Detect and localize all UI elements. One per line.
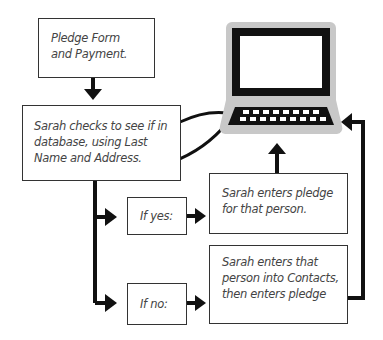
node-pledge-form: Pledge Form and Payment. (38, 18, 155, 78)
node-text: If no: (140, 296, 186, 312)
node-if-no: If no: (127, 283, 187, 325)
branch-lines (95, 180, 117, 312)
node-check-database: Sarah checks to see if in database, usin… (22, 105, 181, 181)
arrow-yes-to-pledge (187, 208, 206, 224)
node-text: If yes: (140, 208, 186, 224)
node-text: Pledge Form and Payment. (51, 30, 141, 62)
node-enter-contact: Sarah enters that person into Contacts, … (209, 245, 348, 324)
computer-icon (220, 22, 343, 134)
node-if-yes: If yes: (127, 197, 187, 235)
node-enter-pledge: Sarah enters pledge for that person. (209, 173, 348, 234)
arrow-no-to-contact (187, 295, 206, 311)
node-text: Sarah checks to see if in database, usin… (34, 118, 174, 166)
node-text: Sarah enters that person into Contacts, … (222, 254, 344, 302)
node-text: Sarah enters pledge for that person. (222, 185, 347, 217)
arrow-form-to-check (84, 78, 102, 100)
arrow-pledge-to-computer (268, 143, 286, 173)
